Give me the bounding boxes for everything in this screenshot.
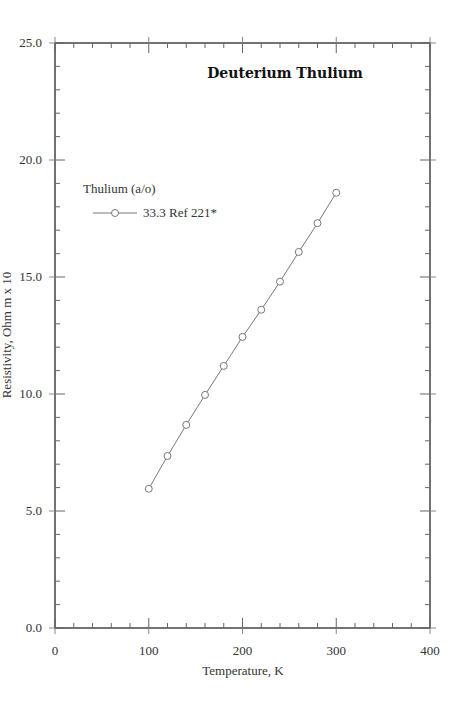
y-tick-label: 15.0 (19, 269, 42, 284)
data-point-marker (333, 189, 340, 196)
y-tick-label: 5.0 (26, 503, 42, 518)
data-point-marker (202, 391, 209, 398)
data-point-marker (314, 220, 321, 227)
x-tick-label: 300 (327, 643, 347, 658)
legend-title: Thulium (a/o) (83, 181, 156, 196)
data-point-marker (239, 333, 246, 340)
y-tick-label: 10.0 (19, 386, 42, 401)
data-point-marker (277, 278, 284, 285)
x-tick-label: 200 (233, 643, 253, 658)
x-tick-label: 400 (420, 643, 440, 658)
y-tick-label: 25.0 (19, 35, 42, 50)
legend-marker-icon (112, 210, 119, 217)
x-axis-title: Temperature, K (202, 663, 284, 678)
data-series (145, 189, 340, 492)
data-point-marker (183, 421, 190, 428)
x-tick-label: 0 (52, 643, 59, 658)
y-tick-label: 0.0 (26, 620, 42, 635)
data-point-marker (220, 362, 227, 369)
legend-entry-label: 33.3 Ref 221* (143, 205, 217, 220)
x-tick-label: 100 (139, 643, 159, 658)
data-point-marker (295, 248, 302, 255)
chart: 0100200300400 0.05.010.015.020.025.0 Deu… (0, 0, 464, 705)
x-tick-labels: 0100200300400 (52, 643, 440, 658)
chart-title: Deuterium Thulium (207, 65, 363, 81)
y-tick-labels: 0.05.010.015.020.025.0 (19, 35, 42, 635)
data-point-marker (145, 485, 152, 492)
data-point-marker (258, 306, 265, 313)
legend: Thulium (a/o) 33.3 Ref 221* (83, 181, 217, 220)
y-axis-title: Resistivity, Ohm m x 10 (0, 272, 14, 399)
data-point-marker (164, 453, 171, 460)
y-tick-label: 20.0 (19, 152, 42, 167)
